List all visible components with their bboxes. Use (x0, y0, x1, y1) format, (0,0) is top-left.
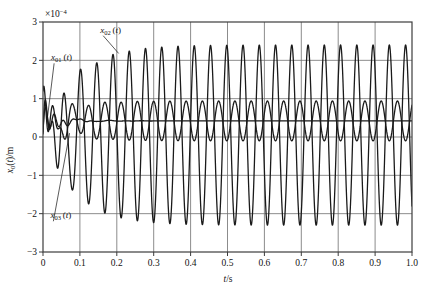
x-tick-label: 0.2 (111, 258, 123, 268)
x-tick-label: 0.5 (222, 258, 234, 268)
x-axis-title: t/s (224, 274, 233, 284)
y-axis-title: x0(t)/m (5, 146, 16, 174)
figure-container: 00.10.20.30.40.50.60.70.80.91.0 3210−1−2… (0, 0, 427, 292)
y-tick-label: 3 (32, 17, 37, 27)
y-tick-label: 0 (32, 132, 37, 142)
x03-annotation-text: x03 (t) (49, 210, 71, 221)
x-tick-label: 0.7 (295, 258, 307, 268)
x-tick-label: 0.8 (332, 258, 344, 268)
x-tick-label: 0 (41, 258, 46, 268)
x-tick-label: 0.9 (369, 258, 381, 268)
y-tick-label: −1 (27, 171, 37, 181)
y-tick-label: 1 (32, 94, 37, 104)
y-tick-label: 2 (32, 56, 37, 66)
x-axis-title-unit: /s (226, 274, 233, 284)
x-tick-label: 0.1 (74, 258, 86, 268)
chart-background (0, 0, 427, 292)
y-tick-label: −3 (27, 247, 37, 257)
x-tick-label: 0.6 (258, 258, 270, 268)
x-tick-label: 0.3 (148, 258, 160, 268)
oscillation-response-chart: 00.10.20.30.40.50.60.70.80.91.0 3210−1−2… (0, 0, 427, 292)
multiplier-exponent: −4 (60, 8, 68, 15)
y-axis-title-rest: (t)/m (5, 146, 16, 166)
x01-annotation-text: x01 (t) (50, 52, 72, 63)
x02-annotation-text: x02 (t) (99, 25, 121, 36)
x-tick-label: 1.0 (406, 258, 418, 268)
x-tick-label: 0.4 (185, 258, 197, 268)
svg-text:x0(t)/m: x0(t)/m (5, 146, 16, 174)
y-tick-label: −2 (27, 209, 37, 219)
multiplier-text: ×10 (45, 9, 60, 19)
svg-text:t/s: t/s (224, 274, 233, 284)
